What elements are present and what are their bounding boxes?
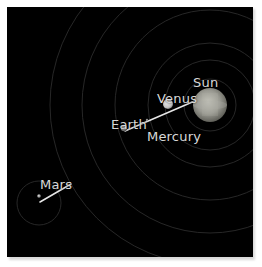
mercury-label: Mercury [147,129,201,144]
sun-label: Sun [193,75,218,90]
sun-streak [202,93,218,116]
night-sky-canvas: Sun Venus Earth Mercury Mars [7,7,253,257]
mars-label: Mars [40,177,72,192]
orbit-diagram-svg [7,7,253,257]
mars-body [37,194,41,198]
solar-system-figure: Sun Venus Earth Mercury Mars [0,0,262,267]
venus-label: Venus [157,91,197,106]
earth-label: Earth [111,117,147,132]
